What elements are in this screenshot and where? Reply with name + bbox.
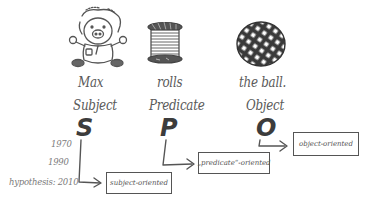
- teddy-bear-icon: [70, 7, 127, 66]
- object-word: the ball.: [239, 74, 286, 90]
- subject-oriented-label: subject-oriented: [110, 179, 168, 187]
- predicate-connector-arrow: [163, 140, 194, 169]
- spo-diagram: Max rolls the ball. Subject Predicate Ob…: [0, 0, 369, 205]
- subject-letter: S: [76, 114, 93, 142]
- subject-word: Max: [78, 74, 103, 90]
- subject-oriented-box: subject-oriented: [106, 172, 172, 194]
- object-oriented-label: object-oriented: [299, 140, 353, 148]
- subject-connector-arrow: [79, 140, 101, 187]
- predicate-oriented-label: „predicate“-oriented: [197, 159, 270, 167]
- ball-icon: [237, 22, 285, 66]
- spool-of-thread-icon: [148, 22, 182, 63]
- predicate-letter: P: [160, 114, 177, 142]
- timeline-year-1970: 1970: [51, 138, 72, 149]
- predicate-oriented-box: „predicate“-oriented: [198, 152, 270, 174]
- subject-label: Subject: [73, 97, 117, 113]
- object-letter: O: [256, 114, 276, 142]
- predicate-word: rolls: [157, 74, 182, 90]
- timeline-hypothesis-2010: hypothesis: 2010: [9, 176, 78, 187]
- predicate-label: Predicate: [149, 97, 204, 113]
- object-oriented-box: object-oriented: [293, 132, 359, 156]
- object-label: Object: [246, 97, 284, 113]
- timeline-year-1990: 1990: [48, 156, 69, 167]
